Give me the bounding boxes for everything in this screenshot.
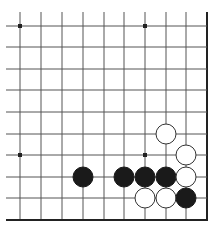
black-stone[interactable] xyxy=(114,167,134,187)
black-stone[interactable] xyxy=(135,167,155,187)
stones-layer[interactable] xyxy=(73,124,196,208)
star-point-icon xyxy=(143,24,147,28)
white-stone[interactable] xyxy=(176,145,196,165)
white-stone[interactable] xyxy=(156,124,176,144)
white-stone[interactable] xyxy=(156,188,176,208)
star-point-icon xyxy=(143,153,147,157)
black-stone[interactable] xyxy=(176,188,196,208)
star-point-icon xyxy=(18,24,22,28)
go-board[interactable] xyxy=(0,0,212,234)
black-stone[interactable] xyxy=(73,167,93,187)
board-grid xyxy=(6,12,208,220)
black-stone[interactable] xyxy=(156,167,176,187)
white-stone[interactable] xyxy=(135,188,155,208)
white-stone[interactable] xyxy=(176,167,196,187)
star-point-icon xyxy=(18,153,22,157)
